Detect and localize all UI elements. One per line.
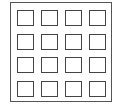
grid-square-r2-c4 bbox=[89, 34, 106, 50]
grid-square-r3-c1 bbox=[17, 57, 34, 73]
grid-square-r4-c2 bbox=[41, 81, 58, 97]
grid-square-r1-c2 bbox=[41, 10, 58, 26]
grid-square-r2-c1 bbox=[17, 34, 34, 50]
grid-square-r4-c1 bbox=[17, 81, 34, 97]
grid-square-r1-c3 bbox=[65, 10, 82, 26]
diagram-canvas bbox=[0, 0, 120, 108]
grid-square-r3-c4 bbox=[89, 57, 106, 73]
grid-square-r2-c3 bbox=[65, 34, 82, 50]
grid-square-r2-c2 bbox=[41, 34, 58, 50]
square-grid bbox=[17, 10, 106, 97]
grid-square-r1-c1 bbox=[17, 10, 34, 26]
grid-square-r1-c4 bbox=[89, 10, 106, 26]
grid-square-r4-c4 bbox=[89, 81, 106, 97]
grid-square-r4-c3 bbox=[65, 81, 82, 97]
grid-square-r3-c3 bbox=[65, 57, 82, 73]
grid-square-r3-c2 bbox=[41, 57, 58, 73]
